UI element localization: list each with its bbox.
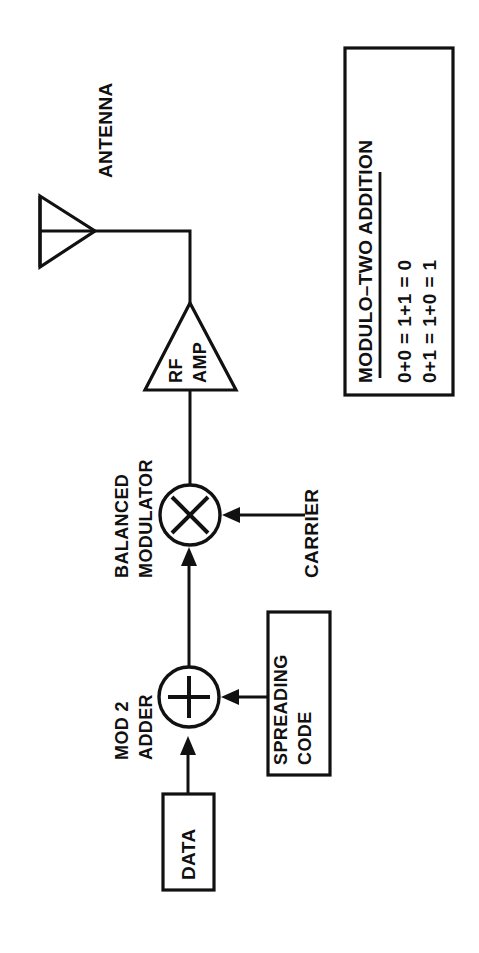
legend-row-1: 0+1 = 1+0 = 1 (419, 259, 440, 383)
balanced-modulator-label-line2: MODULATOR (136, 459, 156, 578)
arrowhead-carrier (222, 507, 240, 523)
mod2-adder-label-line2: ADDER (136, 694, 156, 760)
data-label: DATA (178, 828, 199, 880)
balanced-modulator-label-line1: BALANCED (112, 474, 132, 578)
wire-rfamp-to-antenna (93, 231, 190, 303)
arrowhead-data (180, 736, 196, 755)
antenna-symbol (40, 196, 95, 267)
rf-amp-label-line1: RF (166, 358, 186, 383)
legend-heading: MODULO–TWO ADDITION (355, 140, 376, 383)
spreading-code-label-line2: CODE (295, 711, 315, 765)
balanced-modulator-symbol (160, 485, 220, 545)
mod2-adder-symbol (159, 667, 219, 727)
carrier-label: CARRIER (301, 489, 322, 578)
legend-row-0: 0+0 = 1+1 = 0 (394, 259, 415, 383)
spreading-code-label-line1: SPREADING (271, 654, 291, 765)
mod2-adder-label-line1: MOD 2 (112, 701, 132, 760)
arrowhead-spreadingcode (221, 689, 239, 705)
block-diagram: ANTENNA RF AMP BALANCED MODULATOR CARRIE… (0, 0, 479, 953)
rf-amp-label-line2: AMP (190, 342, 210, 383)
antenna-label: ANTENNA (95, 82, 116, 178)
diagram-canvas: ANTENNA RF AMP BALANCED MODULATOR CARRIE… (0, 0, 479, 953)
arrowhead-adder-to-modulator (181, 547, 197, 566)
